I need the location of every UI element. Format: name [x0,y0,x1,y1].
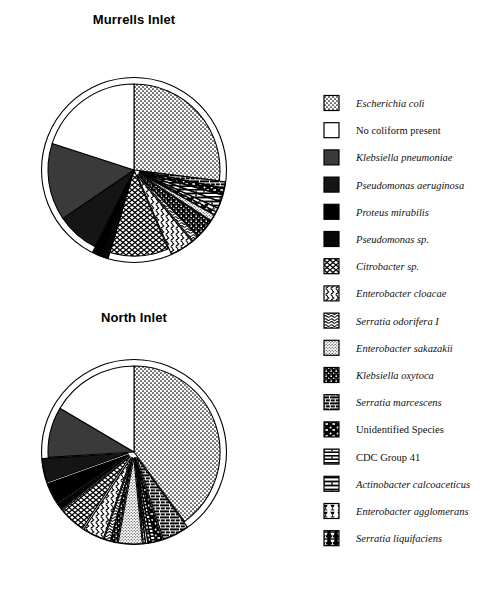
legend-swatch [324,123,339,138]
chart-title-north: North Inlet [101,310,168,325]
chart-murrells-inlet: Murrells Inlet [42,12,227,263]
legend-swatch [324,476,339,491]
legend-label: Enterobacter agglomerans [355,506,468,517]
legend-label: Serratia liquifaciens [356,533,442,544]
chart-north-inlet: North Inlet [42,310,227,545]
legend-label: CDC Group 41 [356,452,420,463]
legend-swatch [324,313,339,328]
legend-swatch [324,232,339,247]
legend-swatch [324,259,339,274]
legend-label: Enterobacter sakazakii [355,343,453,354]
legend-swatch [324,96,339,111]
pie-slices-north [42,360,227,545]
figure-canvas: Murrells Inlet North Inlet Escherichia c… [0,0,482,593]
pie-slice [134,84,220,181]
chart-title-murrells: Murrells Inlet [93,12,176,27]
legend-label: Serratia marcescens [356,397,442,408]
legend-swatch [324,395,339,410]
legend-label: Escherichia coli [355,98,425,109]
pie-slices-murrells [42,78,227,263]
legend-swatch [324,504,339,519]
legend-swatch [324,531,339,546]
legend-swatch [324,449,339,464]
legend-swatch [324,422,339,437]
legend-label: Klebsiella oxytoca [355,370,434,381]
legend-swatch [324,177,339,192]
legend-swatch [324,150,339,165]
legend-label: Citrobacter sp. [356,261,419,272]
legend-swatch [324,204,339,219]
legend-label: Pseudomonas sp. [355,234,429,245]
legend-swatch [324,368,339,383]
legend-label: Unidentified Species [356,424,444,435]
legend-label: Actinobacter calcoaceticus [355,479,470,490]
legend-swatch [324,286,339,301]
legend-label: Enterobacter cloacae [355,288,447,299]
legend-label: Proteus mirabilis [355,207,429,218]
legend-label: Klebsiella pneumoniae [355,152,453,163]
legend-label: No coliform present [356,125,441,136]
legend: Escherichia coliNo coliform presentKlebs… [324,96,470,546]
legend-swatch [324,340,339,355]
legend-label: Pseudomonas aeruginosa [355,180,464,191]
legend-label: Serratia odorifera I [356,316,439,327]
